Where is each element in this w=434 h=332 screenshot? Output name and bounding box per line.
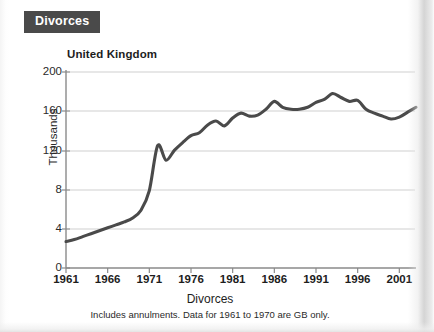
x-tick-label-1976: 1976 (168, 273, 214, 285)
x-tick-label-1996: 1996 (335, 273, 381, 285)
x-tick-label-2001: 2001 (376, 273, 422, 285)
x-tick-label-1986: 1986 (251, 273, 297, 285)
divorces-trend-line (66, 94, 416, 242)
page-canvas: Divorces United Kingdom Thousands 200 16… (0, 0, 434, 332)
x-tick-label-1971: 1971 (126, 273, 172, 285)
x-axis-title: Divorces (0, 292, 420, 306)
x-tick-label-1966: 1966 (85, 273, 131, 285)
x-tick-label-1991: 1991 (293, 273, 339, 285)
chart-footnote: Includes annulments. Data for 1961 to 19… (0, 309, 420, 320)
x-tick-label-1981: 1981 (210, 273, 256, 285)
chart-plot-area: Thousands 200 160 120 8 4 0 (0, 0, 434, 332)
x-tick-label-1961: 1961 (43, 273, 89, 285)
